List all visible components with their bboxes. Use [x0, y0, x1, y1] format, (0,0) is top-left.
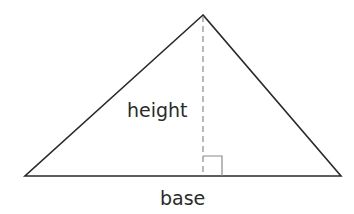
triangle-outline: [25, 15, 341, 176]
right-angle-marker: [203, 156, 222, 176]
height-label: height: [127, 99, 188, 121]
base-label: base: [160, 187, 205, 209]
triangle-diagram: height base: [0, 0, 354, 214]
